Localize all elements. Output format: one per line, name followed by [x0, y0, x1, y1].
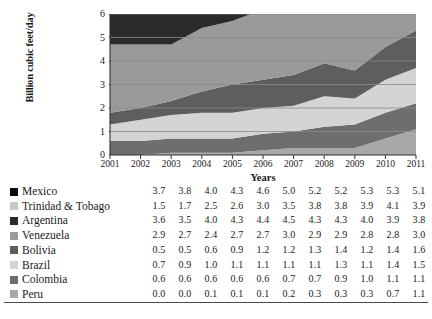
table-cell: 3.5 [172, 213, 198, 228]
table-cell: 0.7 [146, 258, 172, 273]
plot-area: 0123456 20012002200320042005200620072008… [110, 14, 416, 155]
legend-swatch-icon [10, 276, 18, 284]
table-cell: 0.0 [146, 287, 172, 302]
table-cell: 5.2 [302, 184, 328, 199]
table-cell: 0.5 [146, 243, 172, 258]
table-row: Bolivia0.50.50.60.91.21.21.31.41.21.41.6 [0, 243, 432, 258]
legend-entry-argentina: Argentina [0, 213, 146, 228]
x-tick-label-2001: 2001 [101, 160, 120, 170]
legend-entry-brazil: Brazil [0, 258, 146, 273]
table-cell: 4.3 [328, 213, 354, 228]
x-tick-label-2009: 2009 [345, 160, 364, 170]
table-cell: 3.6 [146, 213, 172, 228]
table-cell: 3.0 [406, 228, 432, 243]
table-cell: 4.5 [276, 213, 302, 228]
table-cell: 1.1 [302, 258, 328, 273]
table-cell: 3.8 [406, 213, 432, 228]
y-tick-label-1: 1 [100, 127, 105, 137]
table-cell: 0.6 [172, 272, 198, 287]
table-cell: 1.1 [354, 258, 380, 273]
figure-container: Billion cubic feet/day 0123456 200120022… [0, 0, 432, 319]
table-cell: 0.1 [198, 287, 224, 302]
table-cell: 5.2 [328, 184, 354, 199]
table-cell: 4.0 [354, 213, 380, 228]
table-body: Mexico3.73.84.04.34.65.05.25.25.35.35.1T… [0, 184, 432, 302]
table-cell: 3.8 [302, 199, 328, 214]
table-cell: 3.0 [276, 228, 302, 243]
table-cell: 0.1 [250, 287, 276, 302]
legend-label: Mexico [22, 185, 57, 197]
y-tick-label-6: 6 [100, 9, 105, 19]
table-cell: 4.3 [224, 213, 250, 228]
legend-label: Colombia [22, 273, 67, 285]
table-row: Venezuela2.92.72.42.72.73.02.92.92.82.83… [0, 228, 432, 243]
legend-entry-bolivia: Bolivia [0, 243, 146, 258]
legend-entry-trinidad-tobago: Trinidad & Tobago [0, 199, 146, 214]
table-cell: 1.1 [406, 287, 432, 302]
table-cell: 2.7 [250, 228, 276, 243]
table-cell: 2.7 [224, 228, 250, 243]
table-cell: 1.1 [224, 258, 250, 273]
table-row: Trinidad & Tobago1.51.72.52.63.03.53.83.… [0, 199, 432, 214]
table-cell: 4.0 [198, 213, 224, 228]
x-tick-label-2002: 2002 [131, 160, 150, 170]
table-cell: 1.3 [302, 243, 328, 258]
table-cell: 4.4 [250, 213, 276, 228]
table-cell: 2.8 [380, 228, 406, 243]
legend-swatch-icon [10, 232, 18, 240]
table-cell: 1.1 [380, 272, 406, 287]
table-cell: 2.5 [198, 199, 224, 214]
x-axis-title: Years [110, 172, 416, 183]
table-cell: 5.1 [406, 184, 432, 199]
table-cell: 0.9 [172, 258, 198, 273]
table-cell: 3.7 [146, 184, 172, 199]
table-cell: 0.6 [224, 272, 250, 287]
table-cell: 0.7 [302, 272, 328, 287]
legend-entry-colombia: Colombia [0, 272, 146, 287]
legend-label: Venezuela [22, 229, 69, 241]
legend-label: Argentina [22, 214, 68, 226]
legend-swatch-icon [10, 246, 18, 254]
table-cell: 0.9 [328, 272, 354, 287]
table-cell: 2.6 [224, 199, 250, 214]
x-tick-label-2005: 2005 [223, 160, 242, 170]
table-cell: 4.0 [198, 184, 224, 199]
y-tick-label-5: 5 [100, 33, 105, 43]
table-cell: 5.0 [276, 184, 302, 199]
table-row: Colombia0.60.60.60.60.60.70.70.91.01.11.… [0, 272, 432, 287]
legend-label: Brazil [22, 259, 50, 271]
table-cell: 4.3 [302, 213, 328, 228]
table-cell: 1.4 [380, 258, 406, 273]
table-cell: 3.0 [250, 199, 276, 214]
table-cell: 0.5 [172, 243, 198, 258]
table-cell: 1.5 [146, 199, 172, 214]
table-row: Brazil0.70.91.01.11.11.11.11.31.11.41.5 [0, 258, 432, 273]
legend-entry-peru: Peru [0, 287, 146, 302]
table-cell: 0.6 [250, 272, 276, 287]
data-table-region: Mexico3.73.84.04.34.65.05.25.25.35.35.1T… [0, 184, 432, 319]
table-cell: 1.3 [328, 258, 354, 273]
y-tick-label-2: 2 [100, 103, 105, 113]
table-cell: 0.9 [224, 243, 250, 258]
x-tick-label-2011: 2011 [407, 160, 426, 170]
table-cell: 1.1 [250, 258, 276, 273]
legend-label: Peru [22, 288, 43, 300]
table-cell: 4.6 [250, 184, 276, 199]
table-cell: 1.5 [406, 258, 432, 273]
table-cell: 5.3 [380, 184, 406, 199]
table-cell: 3.9 [354, 199, 380, 214]
table-cell: 2.4 [198, 228, 224, 243]
table-cell: 0.7 [276, 272, 302, 287]
table-cell: 0.3 [302, 287, 328, 302]
table-cell: 0.2 [276, 287, 302, 302]
table-cell: 1.0 [198, 258, 224, 273]
legend-swatch-icon [10, 217, 18, 225]
table-cell: 1.4 [380, 243, 406, 258]
legend-label: Bolivia [22, 244, 56, 256]
table-cell: 0.6 [146, 272, 172, 287]
legend-swatch-icon [10, 261, 18, 269]
legend-label: Trinidad & Tobago [22, 200, 110, 212]
table-cell: 3.9 [406, 199, 432, 214]
table-cell: 1.0 [354, 272, 380, 287]
table-cell: 1.2 [250, 243, 276, 258]
